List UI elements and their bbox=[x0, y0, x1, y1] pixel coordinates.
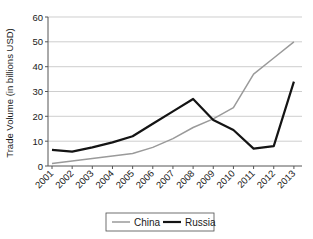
legend-label-china: China bbox=[134, 217, 161, 228]
gridlines bbox=[48, 17, 302, 141]
chart-canvas: Trade Volume (in billions USD) 60 50 40 … bbox=[0, 0, 313, 239]
y-tick-label-30: 30 bbox=[32, 86, 43, 97]
y-tick-label-50: 50 bbox=[32, 36, 43, 47]
y-tick-label-60: 60 bbox=[32, 12, 43, 23]
y-tick-label-40: 40 bbox=[32, 61, 43, 72]
legend: China Russia bbox=[106, 213, 216, 231]
x-tick-label-2008: 2008 bbox=[174, 168, 197, 191]
x-tick-label-2009: 2009 bbox=[194, 168, 217, 191]
y-axis-title-text: Trade Volume (in billions USD) bbox=[4, 28, 15, 158]
x-tick-label-2012: 2012 bbox=[254, 168, 277, 191]
x-tick-label-2003: 2003 bbox=[73, 168, 96, 191]
legend-label-russia: Russia bbox=[185, 217, 216, 228]
y-axis-title: Trade Volume (in billions USD) bbox=[4, 28, 15, 158]
x-tick-label-2013: 2013 bbox=[275, 168, 298, 191]
series-line-china bbox=[52, 42, 294, 164]
data-series-group bbox=[52, 42, 294, 164]
x-tick-label-2005: 2005 bbox=[113, 168, 136, 191]
x-tick-label-2007: 2007 bbox=[154, 168, 177, 191]
x-tick-label-2004: 2004 bbox=[93, 168, 116, 191]
x-tick-label-2006: 2006 bbox=[133, 168, 156, 191]
y-tick-label-10: 10 bbox=[32, 136, 43, 147]
y-tick-label-20: 20 bbox=[32, 111, 43, 122]
x-axis-tick-labels: 2001200220032004200520062007200820092010… bbox=[33, 168, 298, 191]
y-tick-label-0: 0 bbox=[38, 161, 43, 172]
x-tick-label-2010: 2010 bbox=[214, 168, 237, 191]
y-axis-tick-labels: 60 50 40 30 20 10 0 bbox=[32, 12, 43, 172]
x-tick-label-2011: 2011 bbox=[235, 168, 257, 190]
x-tick-label-2002: 2002 bbox=[53, 168, 76, 191]
line-chart: Trade Volume (in billions USD) 60 50 40 … bbox=[0, 0, 313, 239]
x-tick-label-2001: 2001 bbox=[33, 168, 56, 191]
